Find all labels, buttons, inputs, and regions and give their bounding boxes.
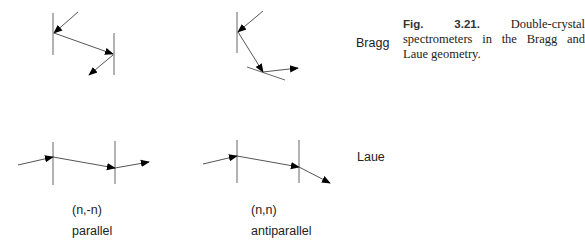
bragg-antiparallel-diagram — [237, 11, 298, 80]
exit-beam-arrow-icon — [89, 55, 113, 75]
antiparallel-orientation-label: antiparallel — [251, 225, 311, 238]
exit-beam-arrow-icon — [263, 68, 298, 72]
exit-beam-arrow-icon — [115, 162, 149, 168]
incident-beam-arrow-icon — [18, 157, 53, 165]
transmitted-beam-arrow-icon — [53, 157, 115, 168]
bragg-row-label: Bragg — [356, 37, 389, 50]
antiparallel-setting-label: (n,n) — [251, 204, 277, 217]
laue-row-label: Laue — [357, 151, 385, 164]
parallel-orientation-label: parallel — [72, 225, 112, 238]
bragg-parallel-diagram — [53, 12, 114, 75]
parallel-setting-label: (n,-n) — [72, 204, 102, 217]
reflected-beam-arrow-icon — [238, 32, 263, 72]
figure-number: Fig. 3.21. — [403, 18, 480, 30]
incident-beam-arrow-icon — [54, 12, 78, 33]
reflected-beam-arrow-icon — [54, 33, 113, 54]
transmitted-beam-arrow-icon — [237, 156, 299, 167]
laue-antiparallel-diagram — [203, 140, 330, 183]
exit-beam-arrow-icon — [299, 167, 330, 183]
laue-parallel-diagram — [18, 141, 149, 185]
figure-caption: Fig. 3.21. Double-crystal spectrometers … — [403, 17, 585, 62]
incident-beam-arrow-icon — [203, 156, 237, 164]
crystal-2 — [247, 67, 285, 80]
incident-beam-arrow-icon — [238, 11, 263, 32]
